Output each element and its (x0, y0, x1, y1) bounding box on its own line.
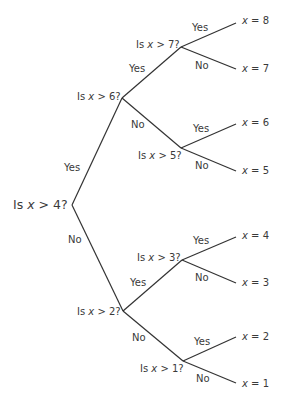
q-suffix: > 4? (35, 197, 68, 212)
node-question-gt1: Is x > 1? (140, 363, 184, 375)
q-prefix: Is (13, 197, 27, 212)
node-question-gt2: Is x > 2? (77, 306, 121, 318)
q-prefix: Is (140, 363, 151, 374)
leaf-x-8: x = 8 (242, 15, 269, 27)
leaf-value: = 3 (248, 277, 269, 288)
branch-label-n3-no: No (195, 272, 209, 284)
leaf-value: = 5 (248, 165, 269, 176)
branch-label-root-yes: Yes (64, 162, 80, 174)
leaf-x-5: x = 5 (242, 165, 269, 177)
q-suffix: > 6? (94, 91, 120, 102)
leaf-x-2: x = 2 (242, 331, 269, 343)
leaf-value: = 6 (248, 117, 269, 128)
edge-n3-no (182, 260, 236, 283)
q-suffix: > 5? (155, 150, 181, 161)
leaf-x-7: x = 7 (242, 63, 269, 75)
leaf-x-3: x = 3 (242, 277, 269, 289)
q-suffix: > 1? (157, 363, 183, 374)
leaf-x-4: x = 4 (242, 230, 269, 242)
node-question-gt3: Is x > 3? (137, 252, 181, 264)
branch-label-root-no: No (68, 234, 82, 246)
edge-n7-yes (181, 23, 236, 47)
leaf-x-1: x = 1 (242, 378, 269, 390)
branch-label-n7-no: No (195, 60, 209, 72)
branch-label-n1-yes: Yes (194, 336, 210, 348)
edge-root-no (72, 205, 123, 311)
leaf-value: = 8 (248, 15, 269, 26)
leaf-value: = 7 (248, 63, 269, 74)
q-prefix: Is (136, 39, 147, 50)
q-prefix: Is (77, 91, 88, 102)
q-suffix: > 7? (153, 39, 179, 50)
node-question-gt7: Is x > 7? (136, 39, 180, 51)
branch-label-n7-yes: Yes (192, 22, 208, 34)
node-question-gt5: Is x > 5? (138, 150, 182, 162)
node-question-gt6: Is x > 6? (77, 91, 121, 103)
branch-label-n5-yes: Yes (193, 123, 209, 135)
branch-label-n6-yes: Yes (129, 63, 145, 75)
q-prefix: Is (77, 306, 88, 317)
branch-label-n3-yes: Yes (193, 235, 209, 247)
leaf-value: = 2 (248, 331, 269, 342)
leaf-value: = 1 (248, 378, 269, 389)
leaf-x-6: x = 6 (242, 117, 269, 129)
leaf-value: = 4 (248, 230, 269, 241)
q-prefix: Is (137, 252, 148, 263)
q-prefix: Is (138, 150, 149, 161)
q-var: x (27, 197, 34, 212)
branch-label-n1-no: No (196, 373, 210, 385)
branch-label-n6-no: No (131, 119, 145, 131)
branch-label-n2-no: No (132, 332, 146, 344)
q-suffix: > 2? (94, 306, 120, 317)
root-question: Is x > 4? (13, 197, 68, 212)
edge-root-yes (72, 98, 122, 205)
q-suffix: > 3? (154, 252, 180, 263)
branch-label-n5-no: No (195, 160, 209, 172)
branch-label-n2-yes: Yes (130, 277, 146, 289)
